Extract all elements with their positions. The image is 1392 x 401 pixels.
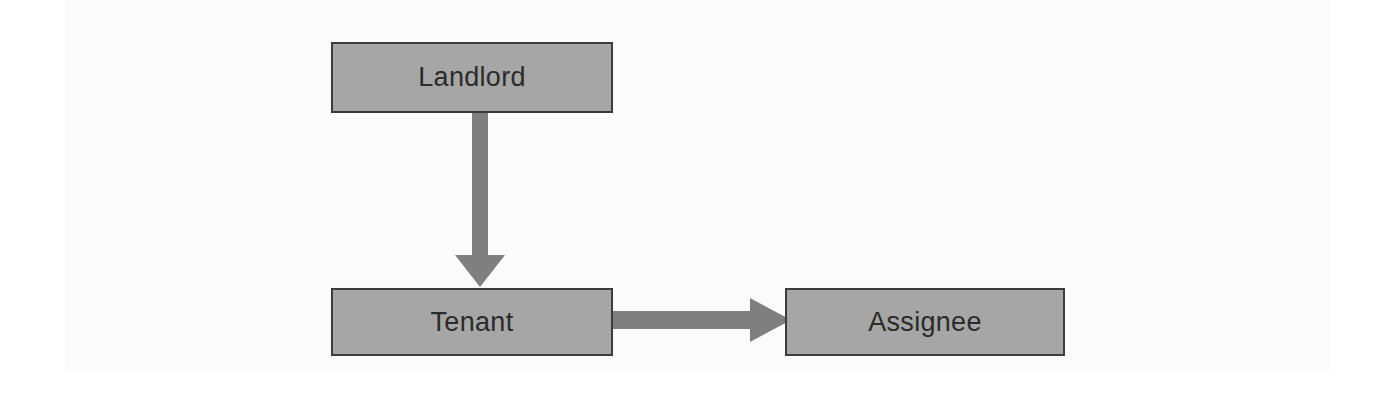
node-tenant[interactable]: Tenant xyxy=(331,288,613,356)
arrow-down-icon xyxy=(455,105,505,287)
node-assignee[interactable]: Assignee xyxy=(785,288,1065,356)
node-landlord[interactable]: Landlord xyxy=(331,42,613,113)
arrow-landlord-to-tenant xyxy=(440,105,520,290)
node-landlord-label: Landlord xyxy=(418,64,526,91)
diagram-canvas: Landlord Tenant Assignee xyxy=(0,0,1392,401)
arrow-right-icon xyxy=(605,298,791,342)
node-assignee-label: Assignee xyxy=(868,309,981,336)
arrow-tenant-to-assignee xyxy=(605,292,795,348)
node-tenant-label: Tenant xyxy=(431,309,514,336)
